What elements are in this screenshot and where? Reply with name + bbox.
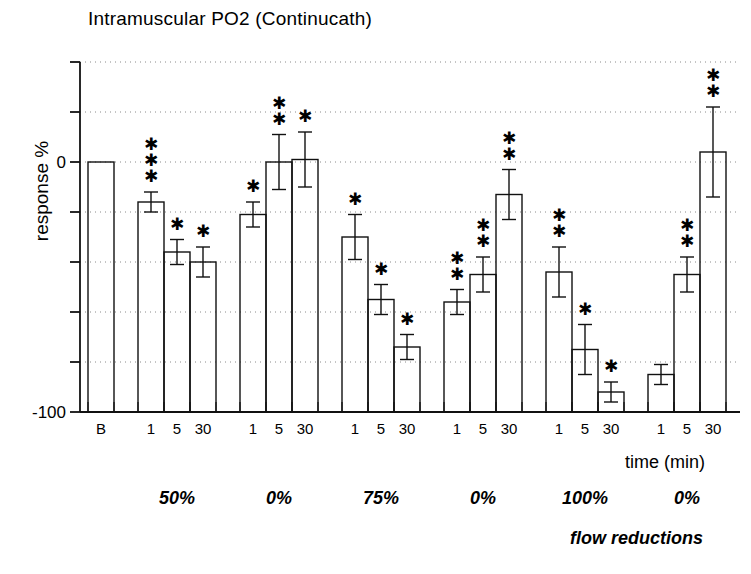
bar-g1-1: ✱	[240, 176, 266, 412]
x-tick-label: 5	[275, 420, 283, 437]
significance-star: ✱	[348, 189, 362, 209]
x-tick-label: 5	[683, 420, 691, 437]
flow-reduction-label: 0%	[438, 488, 528, 509]
bar-rect	[190, 262, 216, 412]
chart-figure: Intramuscular PO2 (Continucath) response…	[0, 0, 751, 574]
bar-rect	[368, 300, 394, 413]
bar-rect	[444, 302, 470, 412]
x-tick-label: 5	[173, 420, 181, 437]
x-tick-label: 1	[555, 420, 563, 437]
significance-star: ✱	[196, 221, 210, 241]
significance-star: ✱	[170, 214, 184, 234]
significance-star: ✱	[272, 93, 286, 113]
secondary-x-axis-label: flow reductions	[570, 528, 703, 549]
flow-reduction-label: 75%	[336, 488, 426, 509]
bar-g0-5: ✱	[164, 214, 190, 413]
bar-g4-5: ✱	[572, 299, 598, 413]
bar-g0-1: ✱✱✱	[138, 134, 164, 412]
bar-rect	[674, 275, 700, 413]
x-tick-label: 5	[581, 420, 589, 437]
bar-g0-30: ✱	[190, 221, 216, 412]
flow-reduction-label: 0%	[234, 488, 324, 509]
bar-g4-30: ✱	[598, 356, 624, 412]
significance-star: ✱	[400, 309, 414, 329]
x-tick-label: 1	[249, 420, 257, 437]
bar-g3-1: ✱✱	[444, 248, 470, 413]
y-tick-label: 0	[57, 153, 66, 172]
bar-g5-1	[648, 365, 674, 413]
bar-rect	[470, 275, 496, 413]
significance-star: ✱	[502, 128, 516, 148]
significance-star: ✱	[476, 215, 490, 235]
bar-rect	[292, 160, 318, 413]
significance-star: ✱	[680, 215, 694, 235]
bar-g3-5: ✱✱	[470, 215, 496, 412]
x-axis-label: time (min)	[625, 452, 705, 473]
bar-rect	[342, 237, 368, 412]
bar-g3-30: ✱✱	[496, 128, 522, 413]
x-tick-label: 30	[297, 420, 314, 437]
significance-star: ✱	[374, 259, 388, 279]
significance-star: ✱	[604, 356, 618, 376]
bar-g4-1: ✱✱	[546, 205, 572, 412]
flow-reduction-label: 100%	[540, 488, 630, 509]
x-tick-label: 30	[705, 420, 722, 437]
bar-g2-30: ✱	[394, 309, 420, 413]
bar-g5-30: ✱✱	[700, 65, 726, 412]
x-tick-label: 5	[377, 420, 385, 437]
bar-g2-5: ✱	[368, 259, 394, 413]
x-tick-label: 1	[147, 420, 155, 437]
flow-reduction-label: 50%	[132, 488, 222, 509]
bar-rect	[266, 162, 292, 412]
significance-star: ✱	[552, 205, 566, 225]
x-tick-label: 30	[399, 420, 416, 437]
significance-star: ✱	[578, 299, 592, 319]
x-tick-label: 30	[195, 420, 212, 437]
bar-baseline	[88, 162, 114, 412]
significance-star: ✱	[144, 134, 158, 154]
bar-rect	[496, 195, 522, 413]
bar-rect	[138, 202, 164, 412]
x-tick-label-baseline: B	[96, 420, 106, 437]
flow-reduction-label: 0%	[642, 488, 732, 509]
y-tick-label: -100	[32, 403, 66, 422]
bar-rect	[240, 215, 266, 413]
bar-rect	[88, 162, 114, 412]
significance-star: ✱	[298, 106, 312, 126]
bar-g1-30: ✱	[292, 106, 318, 412]
x-tick-label: 1	[657, 420, 665, 437]
bar-rect	[164, 252, 190, 412]
x-tick-label: 1	[351, 420, 359, 437]
x-tick-label: 1	[453, 420, 461, 437]
bar-g2-1: ✱	[342, 189, 368, 413]
significance-star: ✱	[246, 176, 260, 196]
x-tick-label: 30	[603, 420, 620, 437]
bar-g5-5: ✱✱	[674, 215, 700, 412]
significance-star: ✱	[450, 248, 464, 268]
x-tick-label: 30	[501, 420, 518, 437]
significance-star: ✱	[706, 65, 720, 85]
bar-g1-5: ✱✱	[266, 93, 292, 413]
x-tick-label: 5	[479, 420, 487, 437]
